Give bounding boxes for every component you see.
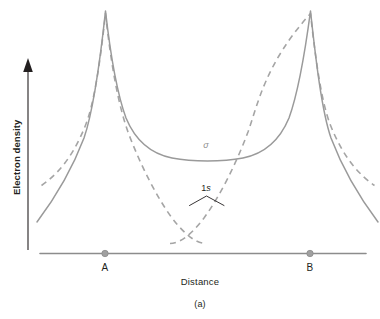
atomic-orbital-1s-curve-a <box>42 14 207 244</box>
nucleus-b-label: B <box>307 262 314 273</box>
leader-chevron-icon <box>190 196 225 206</box>
nucleus-a-label: A <box>102 262 109 273</box>
figure-caption: (a) <box>194 299 206 309</box>
y-axis-label: Electron density <box>11 119 22 195</box>
nucleus-b-marker <box>307 250 313 256</box>
electron-density-figure: Electron density A B σ 1s Distance (a) <box>0 0 380 319</box>
up-arrow-icon <box>23 58 33 72</box>
nucleus-b-group: B <box>307 250 314 273</box>
atomic-orbital-1s-curve-b <box>170 14 375 244</box>
atomic-orbital-1s-label-l: s <box>206 183 211 193</box>
atomic-orbital-1s-label: 1s <box>201 183 211 193</box>
chart-canvas: Electron density A B σ 1s Distance (a) <box>0 0 380 319</box>
x-axis-label: Distance <box>181 276 220 287</box>
sigma-orbital-label: σ <box>203 140 209 150</box>
atomic-orbital-1s-annotation: 1s <box>190 183 225 206</box>
nucleus-a-marker <box>102 250 108 256</box>
nucleus-a-group: A <box>102 250 109 273</box>
y-axis-group <box>23 58 33 250</box>
